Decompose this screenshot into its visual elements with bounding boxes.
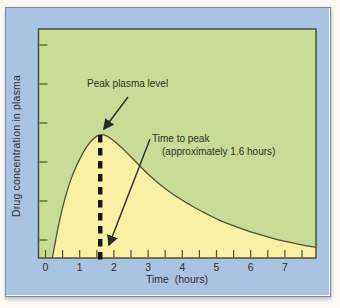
y-axis-label: Drug concentration in plasma [10, 46, 24, 246]
peak-plasma-level-annotation: Peak plasma level [87, 78, 168, 90]
x-tick-label: 2 [107, 261, 121, 273]
x-tick-label: 4 [175, 261, 189, 273]
x-tick-label: 7 [278, 261, 292, 273]
time-to-peak-annotation-line1: Time to peak [152, 133, 209, 145]
x-tick-label: 5 [210, 261, 224, 273]
pharmacokinetics-figure: Drug concentration in plasma Time (hours… [0, 0, 340, 308]
x-axis-label: Time (hours) [117, 273, 237, 285]
x-tick-label: 6 [244, 261, 258, 273]
x-tick-label: 0 [39, 261, 53, 273]
x-tick-label: 3 [141, 261, 155, 273]
x-tick-label: 1 [73, 261, 87, 273]
time-to-peak-annotation-line2: (approximately 1.6 hours) [162, 146, 275, 158]
